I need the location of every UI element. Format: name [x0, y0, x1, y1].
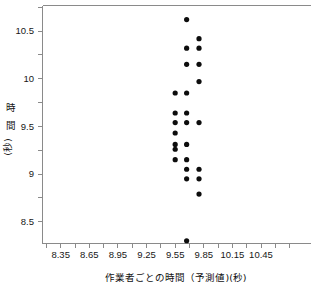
data-point [184, 167, 189, 172]
data-point [184, 46, 189, 51]
data-point [173, 142, 178, 147]
y-axis-title-char: (秒) [2, 138, 13, 155]
data-point [196, 62, 201, 67]
data-point [196, 79, 201, 84]
x-tick-label: 8.95 [109, 249, 128, 260]
x-tick-label: 8.65 [80, 249, 99, 260]
x-tick-label: 8.35 [51, 249, 70, 260]
x-tick-label: 9.25 [137, 249, 156, 260]
data-point [173, 90, 178, 95]
data-point [173, 110, 178, 115]
data-point [184, 110, 189, 115]
data-point [196, 36, 201, 41]
x-tick-label: 10.15 [221, 249, 245, 260]
y-axis-title-char: 時 [6, 102, 16, 113]
data-point [184, 142, 189, 147]
data-point [173, 157, 178, 162]
data-point [196, 46, 201, 51]
data-point [196, 167, 201, 172]
x-axis-title: 作業者ごとの時間（予測値)(秒) [105, 272, 246, 283]
scatter-plot-figure: 10.5109.598.5 8.358.658.959.259.559.8510… [0, 0, 317, 289]
x-tick-label: 9.85 [195, 249, 214, 260]
data-point [184, 62, 189, 67]
data-point [184, 90, 189, 95]
x-tick-label: 10.45 [249, 249, 273, 260]
data-point [184, 17, 189, 22]
y-tick-label: 10 [23, 73, 34, 84]
figure-background [0, 0, 317, 289]
data-point [196, 120, 201, 125]
data-point [196, 191, 201, 196]
data-point [196, 176, 201, 181]
y-tick-label: 10.5 [16, 25, 35, 36]
data-point [173, 147, 178, 152]
x-tick-label: 9.55 [166, 249, 185, 260]
data-point [173, 120, 178, 125]
y-tick-label: 8.5 [21, 216, 34, 227]
y-tick-label: 9 [29, 168, 34, 179]
y-tick-label: 9.5 [21, 121, 34, 132]
data-point [184, 157, 189, 162]
data-point [184, 176, 189, 181]
plot-canvas: 10.5109.598.5 8.358.658.959.259.559.8510… [0, 0, 317, 289]
data-point [184, 238, 189, 243]
y-axis-title-char: 間 [6, 120, 16, 131]
data-point [173, 130, 178, 135]
data-point [184, 120, 189, 125]
